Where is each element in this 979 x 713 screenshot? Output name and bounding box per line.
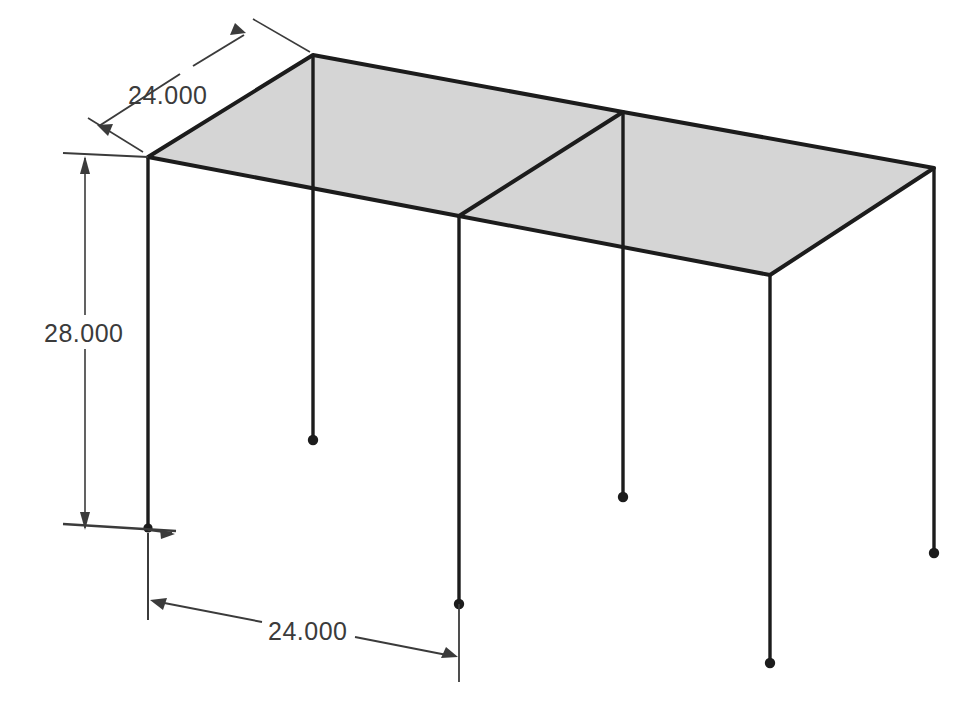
dimension-column-height: 28.000 — [40, 153, 176, 539]
dimension-line-right-half — [355, 637, 452, 656]
dimension-label-bay-span-bottom: 24.000 — [268, 617, 347, 645]
support-dot — [308, 435, 318, 445]
extension-line-left-roof — [88, 118, 143, 152]
dimension-arrow-up — [80, 156, 90, 174]
column-right — [929, 168, 939, 558]
dimension-label-bay-depth-top: 24.000 — [128, 81, 207, 109]
column-front-mid — [454, 216, 464, 609]
extension-line-back-apex — [253, 19, 310, 52]
leader-segment-upper — [193, 35, 244, 66]
dimension-bay-span-bottom: 24.000 — [148, 533, 459, 682]
dimension-arrow-right — [441, 647, 458, 658]
extension-line-bottom — [63, 524, 176, 531]
dimension-label-column-height: 28.000 — [44, 319, 123, 347]
extension-line-top — [63, 153, 148, 157]
support-dot — [618, 492, 628, 502]
column-front-right — [765, 275, 775, 668]
dimension-arrow-down — [80, 512, 90, 530]
roof-slab-group — [148, 55, 934, 275]
dimension-arrow-left — [150, 598, 167, 610]
support-dot — [929, 548, 939, 558]
isometric-frame-drawing: 24.000 28.000 — [0, 0, 979, 713]
drawing-canvas: 24.000 28.000 — [0, 0, 979, 713]
support-dot — [765, 658, 775, 668]
dimension-line-left-half — [154, 601, 262, 622]
column-left — [143, 157, 152, 533]
dimension-arrow-lower-left — [97, 124, 113, 136]
dimension-arrow-upper-right — [230, 23, 246, 35]
